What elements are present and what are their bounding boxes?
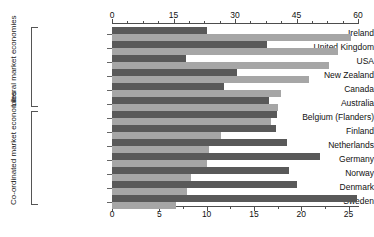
bar-light <box>112 202 176 209</box>
bar-row <box>112 139 358 153</box>
bar-row <box>112 125 358 139</box>
bar-light <box>112 34 351 41</box>
bar-chart: Liberal market economies Co-ordinated ma… <box>0 0 374 237</box>
group-label-liberal-line2: economies <box>9 15 18 54</box>
axis-tick-label: 15 <box>239 209 269 219</box>
bar-light <box>112 62 329 69</box>
bar-dark <box>112 55 186 62</box>
group-label-coordinated: Co-ordinated market economies <box>9 111 31 205</box>
bar-row <box>112 27 358 41</box>
bar-dark <box>112 97 269 104</box>
bar-row <box>112 97 358 111</box>
bar-dark <box>112 41 267 48</box>
axis-tick-label: 15 <box>159 10 189 20</box>
bar-light <box>112 48 338 55</box>
axis-tick-label: 5 <box>144 209 174 219</box>
bar-row <box>112 111 358 125</box>
axis-tick-label: 30 <box>220 10 250 20</box>
bar-row <box>112 167 358 181</box>
axis-tick-label: 0 <box>97 209 127 219</box>
bar-light <box>112 132 221 139</box>
bar-row <box>112 181 358 195</box>
bar-dark <box>112 195 357 202</box>
bar-light <box>112 104 278 111</box>
bar-light <box>112 188 187 195</box>
bar-dark <box>112 111 277 118</box>
bar-dark <box>112 27 207 34</box>
group-bracket-coordinated <box>31 111 38 205</box>
bar-dark <box>112 125 276 132</box>
bar-light <box>112 160 207 167</box>
axis-tick-label: 0 <box>97 10 127 20</box>
bar-light <box>112 76 309 83</box>
bar-light <box>112 118 271 125</box>
bar-dark <box>112 181 297 188</box>
plot-area <box>112 23 358 206</box>
bar-row <box>112 55 358 69</box>
group-bracket-liberal <box>31 27 38 107</box>
bar-row <box>112 153 358 167</box>
bar-light <box>112 174 191 181</box>
bar-light <box>112 90 281 97</box>
bar-row <box>112 83 358 97</box>
group-label-coordinated-line2: economies <box>9 91 18 130</box>
bar-row <box>112 41 358 55</box>
bar-light <box>112 146 209 153</box>
bar-dark <box>112 167 289 174</box>
axis-tick-label: 60 <box>343 10 373 20</box>
bar-dark <box>112 69 237 76</box>
bar-row <box>112 69 358 83</box>
bar-dark <box>112 139 287 146</box>
axis-tick-label: 10 <box>192 209 222 219</box>
bar-row <box>112 195 358 209</box>
bar-dark <box>112 83 224 90</box>
group-label-coordinated-line1: Co-ordinated market <box>9 132 18 205</box>
axis-tick-label: 20 <box>286 209 316 219</box>
axis-tick-label: 45 <box>282 10 312 20</box>
bar-dark <box>112 153 320 160</box>
axis-tick-label: 25 <box>334 209 364 219</box>
